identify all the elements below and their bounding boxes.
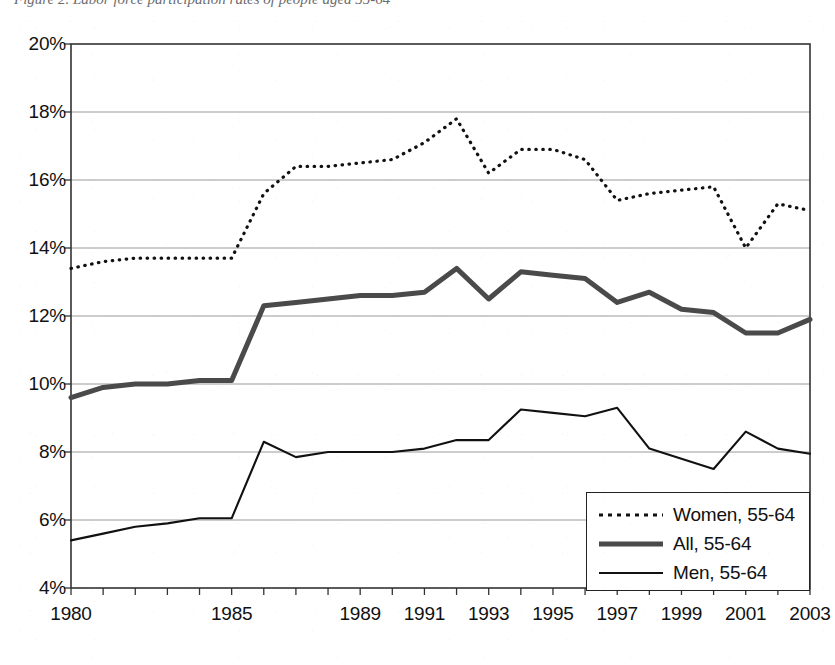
y-tick-label: 18% <box>4 102 66 121</box>
y-tick-label: 16% <box>4 170 66 189</box>
x-axis-labels: 1980198519891991199319951997199920012003 <box>0 604 835 634</box>
x-tick-label: 1989 <box>325 604 395 623</box>
x-tick-label: 1985 <box>197 604 267 623</box>
legend-label-men: Men, 55-64 <box>673 562 767 584</box>
legend-item-women[interactable]: Women, 55-64 <box>587 500 809 529</box>
series-line-1 <box>71 119 810 269</box>
legend-item-men[interactable]: Men, 55-64 <box>587 558 809 587</box>
thick-line-swatch <box>597 538 665 550</box>
chart-figure: Figure 2. Labor force participation rate… <box>0 0 835 665</box>
series-line-2 <box>71 268 810 397</box>
legend-label-women: Women, 55-64 <box>673 504 795 526</box>
dotted-line-swatch <box>597 509 665 521</box>
y-tick-label: 12% <box>4 306 66 325</box>
data-series-group <box>71 119 810 541</box>
y-tick-label: 6% <box>4 510 66 529</box>
x-tick-label: 2001 <box>711 604 781 623</box>
legend-label-all: All, 55-64 <box>673 533 751 555</box>
legend-item-all[interactable]: All, 55-64 <box>587 529 809 558</box>
y-tick-label: 14% <box>4 238 66 257</box>
y-tick-label: 8% <box>4 442 66 461</box>
gridlines-group <box>71 112 810 520</box>
x-tick-label: 1997 <box>582 604 652 623</box>
y-tick-label: 20% <box>4 34 66 53</box>
x-tick-label: 1993 <box>454 604 524 623</box>
x-tick-label: 2003 <box>775 604 835 623</box>
x-tick-label: 1999 <box>646 604 716 623</box>
x-tick-label: 1995 <box>518 604 588 623</box>
x-tick-label: 1991 <box>389 604 459 623</box>
thin-line-swatch <box>597 567 665 579</box>
y-tick-label: 4% <box>4 578 66 597</box>
y-axis-labels: 4%6%8%10%12%14%16%18%20% <box>0 0 66 665</box>
chart-legend: Women, 55-64 All, 55-64 Men, 55-64 <box>586 492 810 591</box>
x-tick-label: 1980 <box>36 604 106 623</box>
y-tick-label: 10% <box>4 374 66 393</box>
